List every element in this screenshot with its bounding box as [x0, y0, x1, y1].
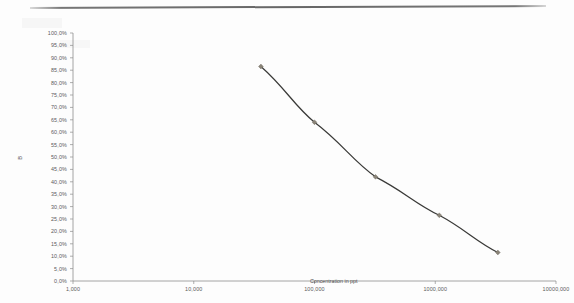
x-axis-tick-label: 10,000 [185, 286, 202, 292]
y-axis-tick-label: 70,0% [51, 104, 67, 110]
y-axis-tick-label: 65,0% [51, 117, 67, 123]
y-axis-tick-label: 50,0% [51, 154, 67, 160]
y-axis-tick-label: 85,0% [51, 67, 67, 73]
y-axis-tick-label: 20,0% [51, 228, 67, 234]
y-axis-tick-label: 75,0% [51, 92, 67, 98]
y-axis-tick-label: 0,0% [54, 278, 67, 284]
y-axis-title: B [17, 156, 23, 160]
y-axis-tick-label: 60,0% [51, 129, 67, 135]
y-axis-tick-label: 10,0% [51, 253, 67, 259]
y-axis-tick-label: 25,0% [51, 216, 67, 222]
x-axis-title: Concentration in ppt [310, 278, 358, 284]
page-root: 100,0%95,0%90,0%85,0%80,0%75,0%70,0%65,0… [0, 0, 574, 303]
data-point-group [259, 64, 501, 255]
line-chart: 100,0%95,0%90,0%85,0%80,0%75,0%70,0%65,0… [0, 0, 574, 303]
x-axis-tick-label: 100,000 [304, 286, 325, 292]
y-axis-tick-label: 80,0% [51, 80, 67, 86]
y-axis-tick-group: 100,0%95,0%90,0%85,0%80,0%75,0%70,0%65,0… [48, 30, 73, 284]
x-axis-tick-label: 10000,000 [543, 286, 570, 292]
y-axis-tick-label: 90,0% [51, 55, 67, 61]
y-axis-tick-label: 40,0% [51, 179, 67, 185]
x-axis-tick-label: 1000,000 [423, 286, 447, 292]
data-series-line [261, 66, 498, 252]
y-axis-tick-label: 45,0% [51, 166, 67, 172]
y-axis-tick-label: 5,0% [54, 266, 67, 272]
data-point-marker [495, 250, 500, 255]
data-point-marker [437, 213, 442, 218]
y-axis-tick-label: 35,0% [51, 191, 67, 197]
y-axis-tick-label: 55,0% [51, 142, 67, 148]
y-axis-tick-label: 95,0% [51, 42, 67, 48]
chart-canvas: 100,0%95,0%90,0%85,0%80,0%75,0%70,0%65,0… [0, 0, 574, 303]
y-axis-tick-label: 30,0% [51, 204, 67, 210]
y-axis-tick-label: 100,0% [48, 30, 67, 36]
x-axis-tick-label: 1,000 [66, 286, 80, 292]
y-axis-tick-label: 15,0% [51, 241, 67, 247]
